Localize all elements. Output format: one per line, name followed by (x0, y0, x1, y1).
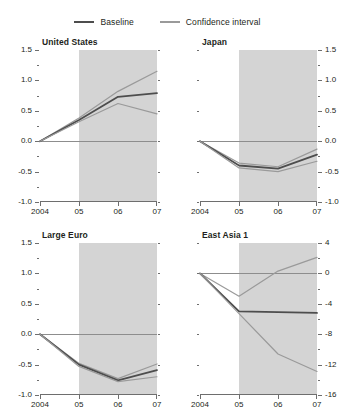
y-axis-tick-label: 0.5 (325, 107, 336, 115)
y-axis-minor-tick (37, 126, 39, 127)
x-axis-tick (79, 395, 80, 399)
y-axis-tick (318, 141, 322, 142)
y-axis-tick (318, 50, 322, 51)
y-axis-minor-tick (37, 258, 39, 259)
y-axis-mirror-tick (158, 172, 160, 173)
y-axis-tick-label: -0.5 (325, 168, 339, 176)
x-axis-tick-label: 07 (153, 401, 162, 409)
y-axis-tick (35, 243, 39, 244)
y-axis-tick (35, 304, 39, 305)
y-axis-tick-label: 1.0 (21, 76, 32, 84)
x-axis-tick (156, 202, 157, 206)
panel-title-japan: Japan (202, 38, 227, 47)
x-axis-tick-label: 05 (75, 208, 84, 216)
x-axis-tick (200, 202, 201, 206)
y-axis-tick-label: -1.0 (18, 198, 32, 206)
y-axis-mirror-tick (197, 395, 199, 396)
y-axis-tick-label: 1.0 (21, 269, 32, 277)
y-axis-tick (318, 80, 322, 81)
y-axis-tick-label: 0.0 (325, 137, 336, 145)
x-axis-tick-label: 05 (75, 401, 84, 409)
y-axis-mirror-tick (197, 334, 199, 335)
y-axis-tick-label: -1.0 (325, 198, 339, 206)
x-axis-tick-label: 05 (235, 401, 244, 409)
x-axis-tick (40, 202, 41, 206)
x-axis-tick-label: 2004 (31, 208, 49, 216)
y-axis-tick (35, 365, 39, 366)
x-axis-tick (200, 395, 201, 399)
panel-large-euro: Large Euro 1.51.00.50.0-0.5-1.0200405060… (0, 227, 167, 419)
x-axis-tick-label: 06 (114, 208, 123, 216)
series-layer (200, 50, 317, 202)
y-axis-tick-label: 4 (325, 239, 329, 247)
y-axis-tick (35, 111, 39, 112)
series-layer (40, 50, 157, 202)
x-axis-tick (156, 395, 157, 399)
series-line-baseline (200, 273, 317, 313)
plot-area-japan: 1.51.00.50.0-0.5-1.02004050607 (200, 50, 317, 202)
y-axis-tick (318, 365, 322, 366)
chart-legend: Baseline Confidence interval (0, 14, 335, 30)
y-axis-mirror-tick (158, 395, 160, 396)
x-axis-tick (40, 395, 41, 399)
y-axis-mirror-tick (158, 304, 160, 305)
y-axis-mirror-tick (158, 202, 160, 203)
y-axis-tick (35, 273, 39, 274)
y-axis-tick-label: -1.0 (18, 391, 32, 399)
x-axis-tick-label: 07 (313, 208, 322, 216)
y-axis-mirror-tick (158, 334, 160, 335)
y-axis-tick (35, 202, 39, 203)
y-axis-minor-tick (37, 96, 39, 97)
y-axis-tick (35, 50, 39, 51)
y-axis-mirror-tick (158, 243, 160, 244)
x-axis-tick-label: 05 (235, 208, 244, 216)
x-axis-tick (118, 202, 119, 206)
x-axis-tick-label: 07 (313, 401, 322, 409)
y-axis-tick-label: 1.5 (21, 239, 32, 247)
y-axis-tick (35, 395, 39, 396)
x-axis-tick (79, 202, 80, 206)
x-axis-tick-label: 06 (114, 401, 123, 409)
y-axis-tick-label: 0.0 (21, 137, 32, 145)
y-axis-mirror-tick (197, 273, 199, 274)
y-axis-tick-label: -0.5 (18, 361, 32, 369)
panel-japan: Japan 1.51.00.50.0-0.5-1.02004050607 (168, 34, 335, 226)
x-axis-tick (239, 202, 240, 206)
y-axis-tick-label: 0.5 (21, 107, 32, 115)
plot-area-east-asia-1: 40-4-8-12-162004050607 (200, 243, 317, 395)
x-axis-tick (278, 202, 279, 206)
y-axis-tick (318, 334, 322, 335)
y-axis-minor-tick (37, 289, 39, 290)
legend-swatch-baseline (74, 21, 94, 23)
series-line-confidence-interval-upper (200, 141, 317, 167)
y-axis-tick (318, 111, 322, 112)
y-axis-minor-tick (37, 349, 39, 350)
y-axis-mirror-tick (158, 111, 160, 112)
y-axis-mirror-tick (197, 202, 199, 203)
x-axis-tick-label: 2004 (191, 401, 209, 409)
y-axis-tick-label: -0.5 (18, 168, 32, 176)
y-axis-tick (318, 273, 322, 274)
x-axis-tick-label: 06 (274, 208, 283, 216)
y-axis-tick (318, 172, 322, 173)
y-axis-mirror-tick (158, 273, 160, 274)
panel-east-asia-1: East Asia 1 40-4-8-12-162004050607 (168, 227, 335, 419)
y-axis-tick (318, 395, 322, 396)
legend-label-baseline: Baseline (100, 18, 133, 27)
y-axis-tick (35, 334, 39, 335)
series-layer (40, 243, 157, 395)
x-axis-tick (316, 202, 317, 206)
panel-title-east-asia-1: East Asia 1 (202, 231, 248, 240)
y-axis-tick-label: -16 (325, 391, 337, 399)
y-axis-minor-tick (318, 96, 320, 97)
legend-entry-baseline: Baseline (74, 18, 133, 27)
y-axis-tick-label: -8 (325, 330, 332, 338)
y-axis-mirror-tick (158, 80, 160, 81)
y-axis-minor-tick (37, 380, 39, 381)
y-axis-tick-label: -12 (325, 361, 337, 369)
legend-label-confidence-interval: Confidence interval (186, 18, 261, 27)
y-axis-minor-tick (318, 349, 320, 350)
y-axis-minor-tick (318, 289, 320, 290)
y-axis-tick (318, 304, 322, 305)
y-axis-tick-label: 0.5 (21, 300, 32, 308)
